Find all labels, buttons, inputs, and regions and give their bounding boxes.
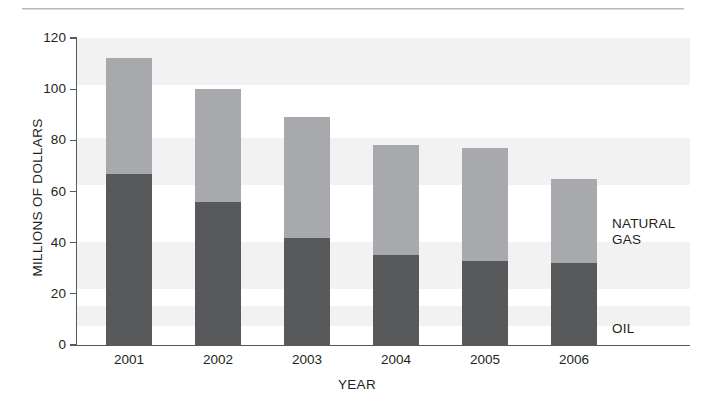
bar-segment-natural-gas[interactable] — [551, 179, 597, 263]
y-axis-tick — [70, 140, 77, 141]
bar-group-2005[interactable] — [462, 148, 508, 345]
background-band — [77, 38, 690, 85]
x-axis-line — [76, 345, 690, 346]
bar-segment-oil[interactable] — [106, 174, 152, 345]
bar-group-2003[interactable] — [284, 117, 330, 345]
bar-segment-oil[interactable] — [462, 261, 508, 345]
bar-segment-oil[interactable] — [195, 202, 241, 345]
bar-group-2001[interactable] — [106, 58, 152, 345]
bar-group-2002[interactable] — [195, 89, 241, 345]
y-axis-tick-label: 120 — [22, 31, 66, 45]
series-label-natural-gas: NATURAL GAS — [612, 216, 675, 248]
y-axis-tick — [70, 37, 77, 38]
bar-group-2006[interactable] — [551, 179, 597, 345]
bar-segment-oil[interactable] — [284, 238, 330, 345]
x-axis-tick-label-2002: 2002 — [178, 352, 258, 367]
bar-segment-oil[interactable] — [551, 263, 597, 345]
y-axis-tick — [70, 293, 77, 294]
y-axis-tick — [70, 344, 77, 345]
x-axis-tick-label-2006: 2006 — [534, 352, 614, 367]
bar-segment-natural-gas[interactable] — [106, 58, 152, 173]
x-axis-tick-label-2005: 2005 — [445, 352, 525, 367]
y-axis-tick-label: 0 — [22, 338, 66, 352]
bar-segment-natural-gas[interactable] — [462, 148, 508, 261]
bar-segment-natural-gas[interactable] — [284, 117, 330, 237]
x-axis-tick-label-2004: 2004 — [356, 352, 436, 367]
bar-segment-natural-gas[interactable] — [195, 89, 241, 202]
stacked-bar-chart: 020406080100120 MILLIONS OF DOLLARS 2001… — [0, 0, 708, 418]
bar-segment-oil[interactable] — [373, 255, 419, 345]
bar-group-2004[interactable] — [373, 145, 419, 345]
x-axis-tick-label-2003: 2003 — [267, 352, 347, 367]
x-axis-tick-label-2001: 2001 — [89, 352, 169, 367]
series-label-oil: OIL — [612, 321, 634, 337]
x-axis-title: YEAR — [77, 377, 637, 392]
plot-area — [77, 38, 690, 345]
y-axis-tick — [70, 242, 77, 243]
y-axis-title: MILLIONS OF DOLLARS — [30, 88, 45, 308]
y-axis-tick — [70, 191, 77, 192]
bar-segment-natural-gas[interactable] — [373, 145, 419, 255]
y-axis-tick — [70, 89, 77, 90]
